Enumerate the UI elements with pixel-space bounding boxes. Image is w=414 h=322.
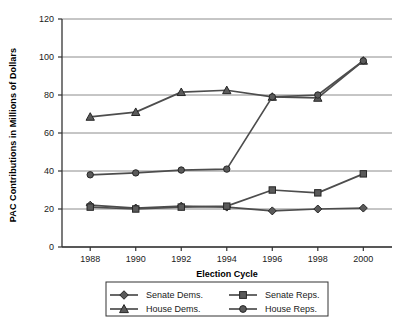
square-marker [133,206,139,212]
square-marker [315,190,321,196]
circle-marker [269,94,275,100]
square-marker [360,171,366,177]
x-tick-label: 1988 [80,254,100,264]
legend-label: House Dems. [146,304,201,314]
y-tick-label: 120 [39,14,54,24]
legend-item-senate-dems: Senate Dems. [110,290,203,300]
legend-label: House Reps. [265,304,317,314]
square-marker [178,204,184,210]
y-axis-title: PAC Contributions in Millions of Dollars [8,48,18,222]
circle-marker [133,170,139,176]
circle-marker [240,306,247,313]
circle-marker [224,166,230,172]
legend-item-house-dems: House Dems. [110,304,201,314]
y-tick-label: 60 [44,128,54,138]
x-tick-label: 1990 [126,254,146,264]
chart-canvas: PAC Contributions in Millions of Dollars… [0,0,414,322]
y-tick-label: 20 [44,204,54,214]
circle-marker [360,58,366,64]
square-marker [240,292,247,299]
y-tick-label: 100 [39,52,54,62]
square-marker [269,187,275,193]
x-tick-label: 1996 [262,254,282,264]
y-tick-label: 0 [49,242,54,252]
y-tick-label: 80 [44,90,54,100]
x-tick-label: 1998 [308,254,328,264]
square-marker [87,204,93,210]
x-tick-label: 1994 [217,254,237,264]
square-marker [224,203,230,209]
y-axis-title-text: PAC Contributions in Millions of Dollars [8,48,18,222]
legend-label: Senate Reps. [265,290,320,300]
circle-marker [178,167,184,173]
legend-label: Senate Dems. [146,290,203,300]
legend-item-senate-reps: Senate Reps. [229,290,320,300]
y-tick-label: 40 [44,166,54,176]
circle-marker [315,92,321,98]
x-tick-label: 2000 [353,254,373,264]
pac-contributions-line-chart: PAC Contributions in Millions of Dollars… [0,0,414,322]
x-axis-title-text: Election Cycle [196,269,258,279]
x-tick-label: 1992 [171,254,191,264]
circle-marker [87,172,93,178]
